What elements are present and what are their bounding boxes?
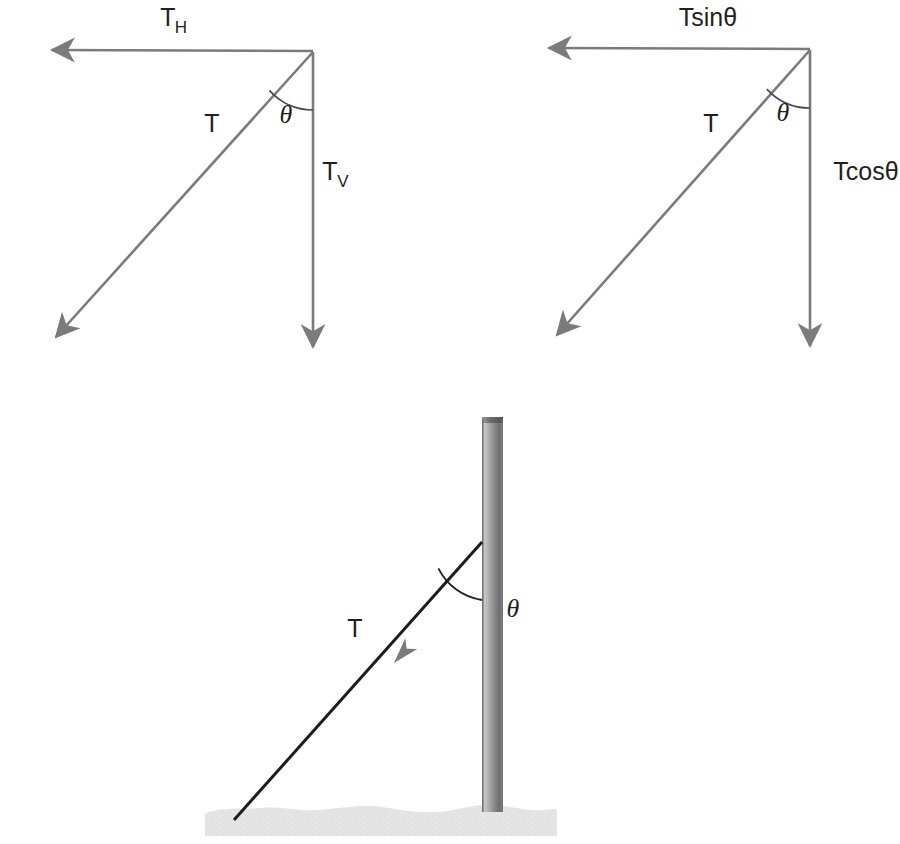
figure-root: T H T θ T V Tsinθ T θ Tcosθ (0, 0, 900, 844)
horizontal-component-label: T (160, 3, 175, 31)
pole-scene-panel: T θ (205, 417, 557, 838)
horizontal-component-arrow (549, 48, 810, 49)
theta-label: θ (507, 594, 520, 623)
pole-top-cap (482, 417, 503, 423)
horizontal-component-label-subscript: H (175, 18, 187, 37)
theta-label: θ (280, 100, 293, 129)
ground-overlap-front (205, 812, 557, 838)
theta-label: θ (777, 98, 790, 127)
horizontal-component-label: Tsinθ (679, 3, 737, 31)
vertical-component-label: Tcosθ (833, 157, 898, 185)
tension-label: T (347, 614, 362, 642)
tension-label: T (703, 109, 718, 137)
guy-wire (234, 542, 482, 820)
physics-diagram-canvas: T H T θ T V Tsinθ T θ Tcosθ (0, 0, 900, 844)
pole-shaft (482, 417, 503, 822)
right-vector-triangle-panel: Tsinθ T θ Tcosθ (549, 3, 899, 346)
vertical-component-label-subscript: V (337, 172, 349, 191)
horizontal-component-arrow (52, 50, 313, 51)
tension-label: T (204, 109, 219, 137)
vertical-component-label: T (322, 157, 337, 185)
tension-resultant-arrow (557, 50, 810, 335)
left-vector-triangle-panel: T H T θ T V (52, 3, 349, 347)
